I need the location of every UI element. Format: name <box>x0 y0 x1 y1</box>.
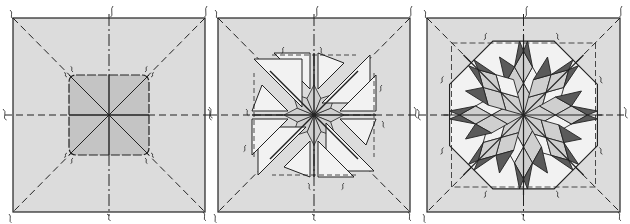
thread-tail-mark <box>525 6 527 17</box>
panel-step-3 <box>417 6 628 223</box>
thread-tail-mark <box>410 6 412 17</box>
thread-tail-mark <box>111 6 113 17</box>
thread-tail-mark <box>620 6 622 17</box>
thread-tail-mark <box>205 6 207 17</box>
thread-tail-mark <box>107 214 111 221</box>
thread-tail-mark <box>522 214 526 221</box>
panel-step-2 <box>208 6 418 223</box>
thread-tail-mark <box>414 107 418 118</box>
thread-tail-mark <box>618 212 621 221</box>
thread-tail-mark <box>312 214 316 221</box>
thread-tail-mark <box>423 214 425 223</box>
thread-tail-mark <box>316 6 318 17</box>
thread-tail-mark <box>408 212 411 221</box>
quilt-diagram <box>0 0 630 224</box>
thread-tail-mark <box>214 214 216 223</box>
panel-step-1 <box>3 6 213 223</box>
diagram-stage <box>0 0 630 224</box>
thread-tail-mark <box>624 107 628 118</box>
thread-tail-mark <box>9 214 11 223</box>
thread-tail-mark <box>203 212 206 221</box>
